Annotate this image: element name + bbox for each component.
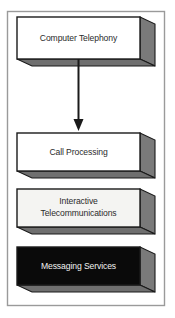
node-side-face <box>140 17 155 66</box>
node-bottom-face <box>17 285 155 292</box>
node-call-processing[interactable]: Call Processing <box>17 133 155 178</box>
node-bottom-face <box>17 59 155 66</box>
node-side-face <box>140 133 155 178</box>
node-bottom-face <box>17 171 155 178</box>
node-interactive-telecommunications[interactable]: Interactive Telecommunications <box>17 189 155 234</box>
node-messaging-services[interactable]: Messaging Services <box>17 247 155 292</box>
node-label: Call Processing <box>49 147 108 157</box>
node-label: Messaging Services <box>41 261 116 271</box>
node-computer-telephony[interactable]: Computer Telephony <box>17 17 155 66</box>
node-label: Computer Telephony <box>40 33 118 43</box>
node-side-face <box>140 189 155 234</box>
node-bottom-face <box>17 227 155 234</box>
node-label-line-1: Interactive <box>59 196 98 206</box>
node-side-face <box>140 247 155 292</box>
hierarchy-diagram: Computer Telephony Call Processing Inter… <box>0 0 175 318</box>
node-label-line-2: Telecommunications <box>40 208 116 218</box>
diagram-canvas: Computer Telephony Call Processing Inter… <box>0 0 175 318</box>
